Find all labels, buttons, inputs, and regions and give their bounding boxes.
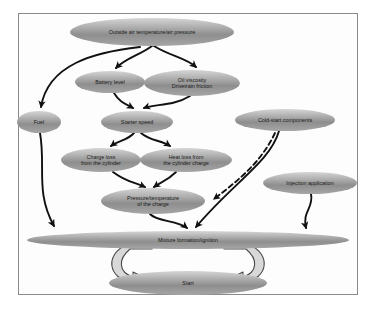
edge-fuel-to-mixture bbox=[40, 133, 54, 226]
node-label: Drivetrain friction bbox=[172, 83, 212, 89]
node-label: Pressure/temperature bbox=[127, 195, 179, 201]
node-label: Oil viscosity bbox=[178, 77, 207, 83]
node-mixture-formation[interactable]: Mixture formation/ignition bbox=[27, 231, 349, 249]
node-outside-air[interactable]: Outside air temperature/air pressure bbox=[70, 18, 234, 46]
nodes-layer: Outside air temperature/air pressureBatt… bbox=[17, 18, 357, 295]
node-label: Battery level bbox=[95, 79, 125, 85]
node-label: of the charge bbox=[137, 201, 168, 207]
node-label: Starter speed bbox=[121, 119, 153, 125]
edge-injection-to-mixture bbox=[305, 194, 311, 228]
node-label: Heat loss from bbox=[169, 154, 204, 160]
edge-battery-to-starter bbox=[114, 93, 133, 108]
node-fuel[interactable]: Fuel bbox=[17, 111, 61, 133]
node-oil-viscosity[interactable]: Oil viscosityDrivetrain friction bbox=[144, 70, 240, 96]
edge-starter-to-charge-loss bbox=[111, 133, 134, 146]
flow-diagram: Outside air temperature/air pressureBatt… bbox=[0, 0, 378, 314]
edge-heat-loss-to-pressure bbox=[154, 172, 176, 187]
edge-pressure-to-mixture bbox=[150, 214, 187, 228]
node-label: Fuel bbox=[34, 119, 45, 125]
edge-outside-to-oil bbox=[154, 46, 196, 67]
node-label: Cold-start components bbox=[258, 117, 313, 123]
node-injection-application[interactable]: Injection application bbox=[263, 172, 357, 194]
edge-charge-loss-to-pressure bbox=[113, 172, 145, 187]
node-label: Start bbox=[182, 280, 194, 286]
node-label: Injection application bbox=[286, 180, 333, 186]
node-battery-level[interactable]: Battery level bbox=[75, 71, 145, 93]
node-pressure-temperature[interactable]: Pressure/temperatureof the charge bbox=[101, 188, 205, 214]
node-cold-start-components[interactable]: Cold-start components bbox=[235, 109, 335, 131]
node-starter-speed[interactable]: Starter speed bbox=[101, 111, 173, 133]
edge-starter-to-heat-loss bbox=[141, 133, 170, 146]
node-heat-loss[interactable]: Heat loss fromthe cylinder charge bbox=[140, 148, 232, 172]
node-label: Outside air temperature/air pressure bbox=[109, 29, 196, 35]
node-label: Mixture formation/ignition bbox=[158, 237, 218, 243]
node-label: Charge loss bbox=[87, 154, 116, 160]
node-label: from the cylinder bbox=[81, 160, 121, 166]
edge-oil-to-starter bbox=[144, 96, 190, 108]
node-charge-loss[interactable]: Charge lossfrom the cylinder bbox=[61, 148, 141, 172]
node-start[interactable]: Start bbox=[109, 271, 267, 295]
node-label: the cylinder charge bbox=[163, 160, 209, 166]
